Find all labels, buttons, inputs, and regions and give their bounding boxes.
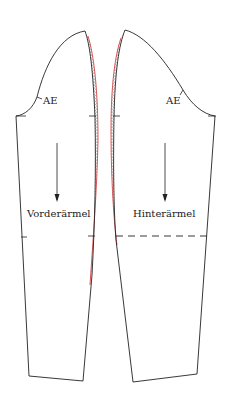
front-outline [16, 31, 95, 381]
front-sleeve-piece [16, 31, 98, 381]
front-ae-notch [37, 97, 42, 99]
front-grain-arrow-icon [55, 194, 60, 202]
back-sleeve-piece [111, 30, 216, 382]
back-piece-label: Hinterärmel [133, 208, 195, 219]
front-ae-label: AE [42, 95, 58, 106]
back-ae-label: AE [165, 95, 181, 106]
back-grain-arrow-icon [163, 194, 168, 202]
back-outline [114, 30, 215, 382]
sleeve-pattern-diagram: AE AE Vorderärmel Hinterärmel [0, 0, 226, 403]
front-piece-label: Vorderärmel [26, 208, 91, 219]
